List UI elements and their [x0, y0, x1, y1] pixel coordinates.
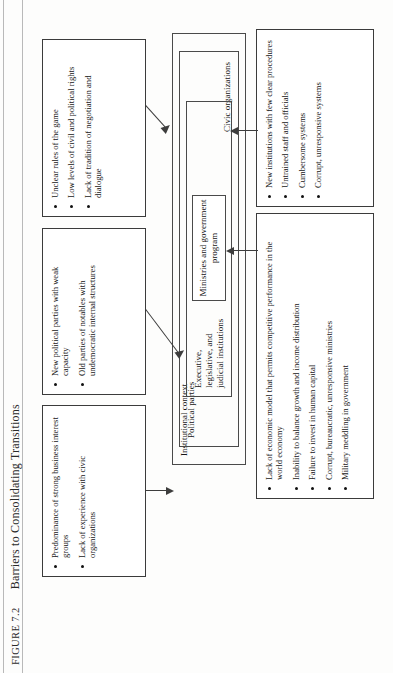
list-item: Inability to balance growth and income d…: [291, 222, 301, 491]
bullet-list: Predominance of strong business interest…: [50, 414, 98, 569]
ring-label-executive-legislative-judicial: Executive, legislative, and judicial ins…: [193, 310, 225, 388]
list-item: Lack of tradition of negotiation and dia…: [83, 48, 104, 209]
list-item: Cumbersome systems: [297, 38, 307, 199]
bullet-list: Unclear rules of the game Low levels of …: [50, 48, 104, 209]
arrowhead-civic-to-outer: [166, 487, 174, 495]
scanned-page: Figure 7.2Barriers to Consolidating Tran…: [0, 0, 393, 673]
bullet-list: New political parties with weak capacity…: [50, 237, 98, 387]
annotation-box-institutions: New institutions with few clear procedur…: [256, 29, 374, 207]
list-item: Predominance of strong business interest…: [50, 414, 71, 569]
list-item: Corrupt, bureaucratic, unresponsive mini…: [324, 222, 334, 491]
bullet-list: Lack of economic model that permits comp…: [264, 222, 351, 491]
list-item: Corrupt, unresponsive systems: [313, 38, 323, 199]
ring-ministries-government-program: Ministries and government program: [192, 195, 226, 301]
figure-canvas: Figure 7.2Barriers to Consolidating Tran…: [0, 0, 393, 673]
ring-label-ministries-government-program: Ministries and government program: [198, 196, 221, 300]
list-item: Untrained staff and officials: [280, 38, 290, 199]
list-item: Unclear rules of the game: [50, 48, 60, 209]
connector-civic-to-outer: [146, 490, 168, 491]
list-item: New institutions with few clear procedur…: [264, 38, 274, 199]
connector-institutions-to-third-ring: [238, 130, 258, 131]
list-item: Old parties of notables with undemocrati…: [77, 237, 98, 387]
list-item: Lack of experience with civic organizati…: [77, 414, 98, 569]
arrowhead-economy-to-core-ring: [226, 247, 234, 255]
annotation-box-civic: Predominance of strong business interest…: [42, 405, 146, 577]
figure-title: Barriers to Consolidating Transitions: [8, 404, 22, 589]
arrowhead-institutions-to-third-ring: [230, 127, 238, 135]
bullet-list: New institutions with few clear procedur…: [264, 38, 324, 199]
list-item: New political parties with weak capacity: [50, 237, 71, 387]
connector-economy-to-core-ring: [234, 250, 258, 251]
figure-caption: Figure 7.2Barriers to Consolidating Tran…: [8, 404, 23, 665]
annotation-box-rules: Unclear rules of the game Low levels of …: [42, 39, 146, 217]
figure-number: Figure 7.2: [10, 607, 21, 665]
list-item: Military meddling in government: [340, 222, 350, 491]
annotation-box-economy: Lack of economic model that permits comp…: [256, 213, 374, 499]
list-item: Low levels of civil and political rights: [66, 48, 76, 209]
list-item: Lack of economic model that permits comp…: [264, 222, 285, 491]
list-item: Failure to invest in human capital: [307, 222, 317, 491]
annotation-box-political-parties: New political parties with weak capacity…: [42, 228, 146, 395]
